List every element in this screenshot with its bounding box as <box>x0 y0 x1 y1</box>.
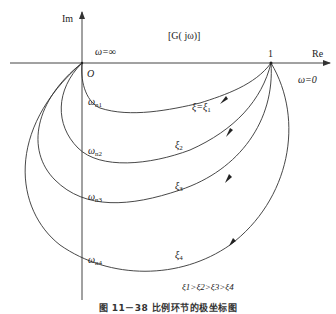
xi1-label: ξ=ξ1 <box>192 102 211 114</box>
wn2-sub: n2 <box>95 150 102 158</box>
curve-xi3 <box>38 63 271 203</box>
wn3-omega: ω <box>88 191 95 202</box>
wn3-label: ωn3 <box>88 192 102 204</box>
wn4-sub: n4 <box>95 259 102 267</box>
damping-order-label: ξ1>ξ2>ξ3>ξ4 <box>182 283 234 292</box>
xi3-label: ξ3 <box>175 181 183 193</box>
arrow-xi1 <box>220 96 228 104</box>
xi1-text: ξ=ξ <box>192 101 207 112</box>
arrow-xi3 <box>225 174 232 183</box>
curve-xi4 <box>25 63 289 271</box>
omega-infinity-label: ω=∞ <box>95 47 116 57</box>
wn1-sub: n1 <box>95 101 102 109</box>
wn1-omega: ω <box>88 96 95 107</box>
unit-point <box>270 62 273 65</box>
arrow-xi4 <box>229 238 236 246</box>
diagram-title: [G( jω)] <box>168 31 200 41</box>
wn4-omega: ω <box>88 254 95 265</box>
xi2-sub: 2 <box>179 144 183 152</box>
omega-zero-label: ω=0 <box>298 75 317 85</box>
curve-xi1 <box>82 63 271 113</box>
xi4-label: ξ4 <box>175 250 183 262</box>
origin-label: O <box>87 69 94 79</box>
figure-caption: 图 11－38 比例环节的极坐标图 <box>0 301 336 314</box>
xi2-label: ξ2 <box>175 140 183 152</box>
im-axis-label: Im <box>62 14 73 24</box>
xi3-sub: 3 <box>179 185 183 193</box>
unit-point-label: 1 <box>268 49 273 59</box>
wn3-sub: n3 <box>95 196 102 204</box>
wn4-label: ωn4 <box>88 255 102 267</box>
wn2-label: ωn2 <box>88 146 102 158</box>
xi1-sub: 1 <box>207 106 211 114</box>
wn1-label: ωn1 <box>88 97 102 109</box>
arrow-xi2 <box>226 128 233 137</box>
re-axis-label: Re <box>312 49 323 59</box>
origin-point <box>81 62 83 64</box>
wn2-omega: ω <box>88 145 95 156</box>
xi4-sub: 4 <box>179 254 183 262</box>
